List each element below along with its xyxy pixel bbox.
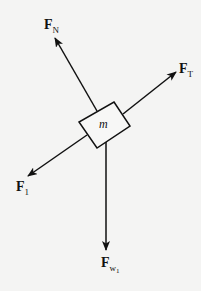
mass-label: m	[99, 118, 108, 130]
normal-force-label: FN	[44, 18, 59, 35]
free-body-diagram	[0, 0, 201, 291]
tension-force-label: FT	[179, 62, 193, 79]
weight-force-label: Fw1	[101, 256, 120, 275]
f1-force-arrow	[28, 135, 87, 176]
f1-force-label: F1	[16, 180, 29, 197]
normal-force-arrow	[55, 38, 97, 111]
tension-force-arrow	[123, 72, 176, 114]
